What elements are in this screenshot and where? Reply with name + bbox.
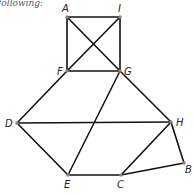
node-G: [118, 69, 122, 73]
node-I: [118, 15, 122, 19]
caption-text: following:: [0, 0, 43, 8]
edge-F-D: [17, 71, 67, 123]
node-H: [169, 120, 173, 124]
node-label-B: B: [185, 164, 192, 175]
edge-D-H: [17, 122, 171, 123]
edge-D-E: [17, 123, 68, 175]
graph-labels: AIFGDHBEC: [5, 3, 192, 190]
node-A: [65, 15, 69, 19]
node-label-I: I: [118, 3, 121, 14]
node-E: [66, 173, 70, 177]
edge-H-B: [171, 122, 184, 163]
node-D: [15, 121, 19, 125]
node-label-E: E: [64, 179, 71, 190]
node-label-G: G: [124, 66, 132, 77]
edge-G-H: [120, 71, 171, 122]
graph-edges: [17, 17, 184, 175]
graph-nodes: [15, 15, 186, 177]
graph-diagram: following: AIFGDHBEC: [0, 0, 194, 195]
node-F: [65, 69, 69, 73]
node-label-H: H: [176, 117, 184, 128]
node-label-D: D: [5, 118, 13, 129]
node-label-C: C: [117, 179, 124, 190]
node-label-F: F: [57, 66, 63, 77]
node-label-A: A: [61, 3, 69, 14]
node-C: [119, 173, 123, 177]
